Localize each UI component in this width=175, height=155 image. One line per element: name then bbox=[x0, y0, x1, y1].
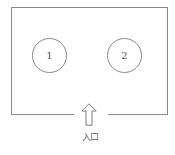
entrance-label: 入口 bbox=[78, 130, 102, 143]
room-wall-left bbox=[11, 7, 12, 114]
room-wall-bottom-left bbox=[11, 114, 74, 115]
station-1-circle: 1 bbox=[32, 38, 67, 73]
room-wall-top bbox=[11, 7, 168, 8]
up-arrow-icon bbox=[81, 103, 97, 126]
station-2-label: 2 bbox=[121, 50, 127, 61]
station-2-circle: 2 bbox=[107, 38, 142, 73]
station-1-label: 1 bbox=[46, 50, 52, 61]
room-wall-right bbox=[167, 7, 168, 114]
floor-plan-diagram: 1 2 入口 bbox=[0, 0, 175, 155]
room-wall-bottom-right bbox=[108, 114, 168, 115]
